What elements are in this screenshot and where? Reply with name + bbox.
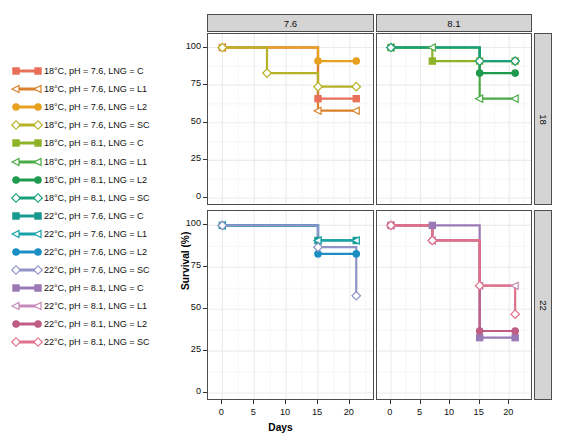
data-point (353, 251, 359, 257)
data-point (511, 310, 519, 318)
y-tick-mark (203, 308, 207, 309)
panel-18-8-1 (376, 33, 532, 205)
data-point (314, 82, 322, 90)
data-point (429, 58, 435, 64)
y-tick-mark (203, 197, 207, 198)
row-strip-18: 18 (534, 33, 552, 205)
x-tick-label: 0 (381, 407, 399, 417)
y-tick-label: 75 (175, 78, 201, 88)
x-tick-label: 15 (470, 407, 488, 417)
col-strip-label-1: 7.6 (284, 18, 297, 29)
x-tick-mark (317, 400, 318, 404)
x-tick-mark (449, 400, 450, 404)
data-point (315, 58, 321, 64)
x-tick-label: 5 (244, 407, 262, 417)
y-tick-label: 100 (175, 218, 201, 228)
series-line (222, 48, 356, 62)
series-line (391, 225, 515, 337)
panel-canvas-22-7-6 (208, 211, 373, 399)
series-line (391, 48, 515, 62)
x-tick-label: 10 (276, 407, 294, 417)
row-strip-label-2: 22 (537, 300, 548, 311)
y-tick-mark (203, 224, 207, 225)
series-line (222, 48, 356, 87)
data-point (476, 70, 482, 76)
data-point (429, 222, 435, 228)
data-point (353, 58, 359, 64)
y-tick-label: 25 (175, 153, 201, 163)
panel-canvas-18-8-1 (377, 34, 531, 204)
row-strip-label-1: 18 (537, 114, 548, 125)
data-point (512, 70, 518, 76)
series-line (222, 225, 356, 240)
x-axis-title: Days (0, 422, 561, 433)
data-point (512, 328, 518, 334)
series-line (222, 225, 356, 295)
y-tick-mark (203, 47, 207, 48)
data-point (315, 96, 321, 102)
data-point (352, 82, 360, 90)
panel-22-7-6 (207, 210, 374, 400)
series-line (222, 48, 356, 111)
panel-22-8-1 (376, 210, 532, 400)
x-tick-label: 15 (308, 407, 326, 417)
data-point (352, 292, 360, 300)
series-line (391, 225, 515, 285)
x-tick-mark (479, 400, 480, 404)
y-tick-mark (203, 84, 207, 85)
panel-canvas-18-7-6 (208, 34, 373, 204)
y-tick-label: 25 (175, 344, 201, 354)
data-point (352, 107, 359, 114)
row-strip-22: 22 (534, 210, 552, 400)
col-strip-label-2: 8.1 (447, 18, 460, 29)
x-tick-mark (349, 400, 350, 404)
x-tick-label: 5 (411, 407, 429, 417)
x-tick-mark (221, 400, 222, 404)
x-tick-mark (508, 400, 509, 404)
series-line (391, 225, 515, 314)
facet-plot: 7.6 8.1 18 22 02550751000255075100051015… (0, 0, 561, 440)
x-tick-mark (253, 400, 254, 404)
y-tick-mark (203, 392, 207, 393)
x-tick-label: 20 (340, 407, 358, 417)
y-tick-label: 0 (175, 191, 201, 201)
x-tick-mark (390, 400, 391, 404)
y-tick-mark (203, 122, 207, 123)
data-point (477, 335, 483, 341)
data-point (512, 335, 518, 341)
y-tick-label: 50 (175, 302, 201, 312)
x-tick-label: 10 (440, 407, 458, 417)
y-tick-label: 100 (175, 41, 201, 51)
data-point (353, 96, 359, 102)
y-tick-label: 50 (175, 116, 201, 126)
y-axis-title: Survival (%) (180, 232, 191, 290)
y-tick-mark (203, 266, 207, 267)
series-line (391, 48, 515, 62)
x-tick-mark (285, 400, 286, 404)
y-tick-mark (203, 159, 207, 160)
x-tick-mark (420, 400, 421, 404)
x-tick-label: 0 (212, 407, 230, 417)
data-point (476, 328, 482, 334)
y-tick-label: 0 (175, 386, 201, 396)
panel-18-7-6 (207, 33, 374, 205)
data-point (511, 95, 518, 102)
y-tick-mark (203, 350, 207, 351)
panel-canvas-22-8-1 (377, 211, 531, 399)
x-tick-label: 20 (499, 407, 517, 417)
series-line (222, 225, 356, 240)
col-strip-7-6: 7.6 (207, 14, 374, 32)
col-strip-8-1: 8.1 (376, 14, 532, 32)
